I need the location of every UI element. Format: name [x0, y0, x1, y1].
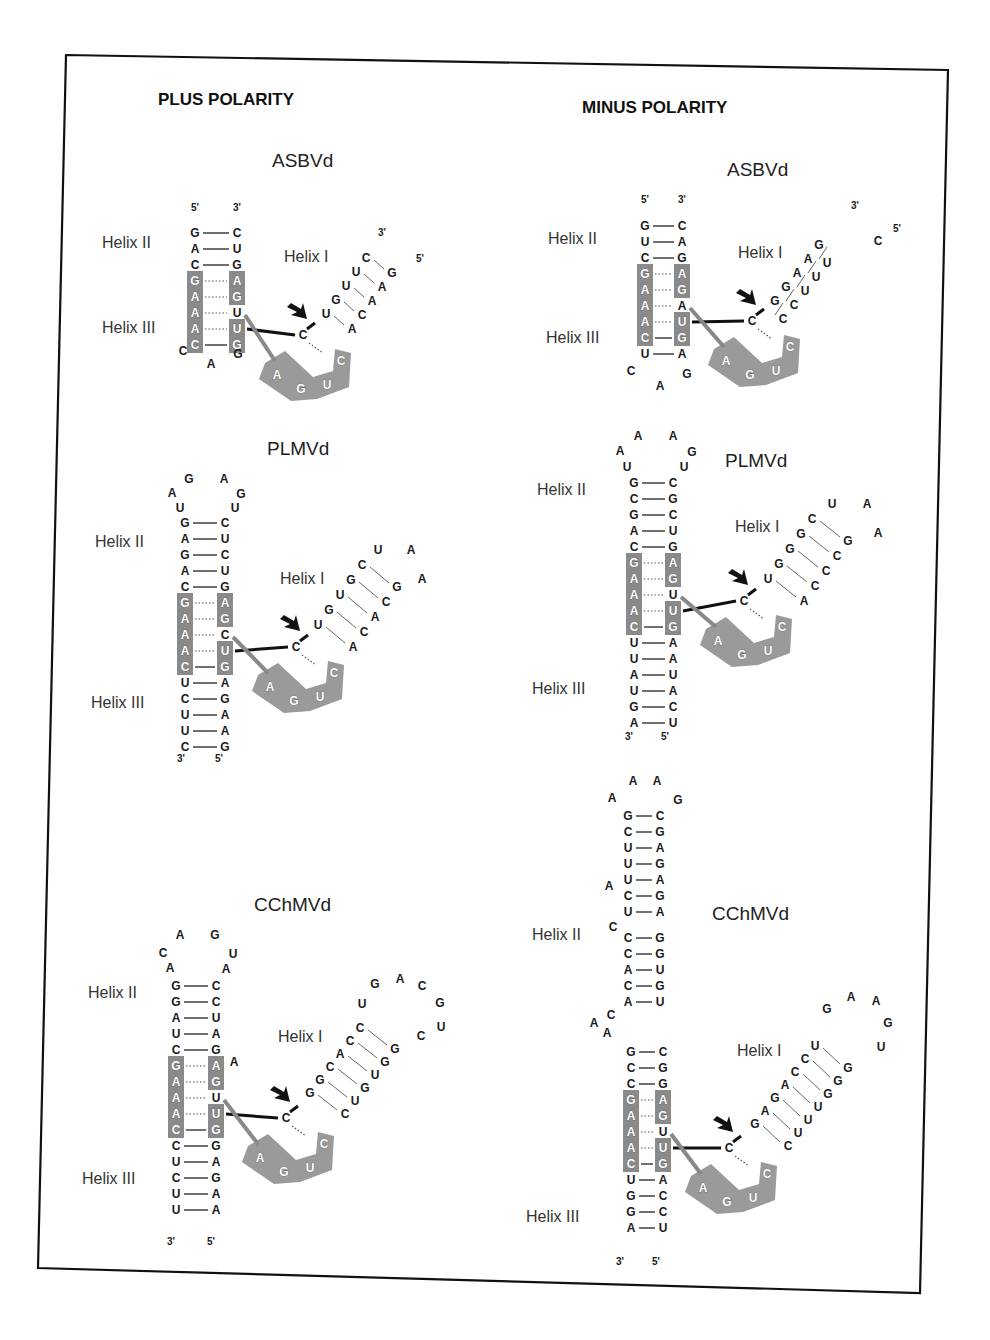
- loop-nucleotide: G: [236, 487, 245, 501]
- nucleotide: G: [211, 1171, 220, 1185]
- conserved-nucleotide: G: [211, 1123, 220, 1137]
- helix1-nucleotide: C: [358, 558, 367, 572]
- conserved-nucleotide: A: [191, 322, 200, 336]
- cleavage-bond: [756, 309, 764, 315]
- nucleotide: A: [678, 299, 687, 313]
- nucleotide: U: [627, 1173, 636, 1187]
- helix1-nucleotide: G: [390, 1042, 399, 1056]
- five-prime-label: 5': [416, 253, 424, 264]
- tertiary-interaction-line: [224, 1100, 258, 1144]
- helix1-nucleotide: C: [791, 1065, 800, 1079]
- nucleotide: G: [668, 492, 677, 506]
- nucleotide: C: [624, 825, 633, 839]
- nucleotide: U: [233, 242, 242, 256]
- helix1-nucleotide: G: [331, 293, 340, 307]
- nucleotide: A: [669, 652, 678, 666]
- tertiary-interaction-line: [671, 1134, 701, 1174]
- helix1-pair-bond: [374, 260, 384, 269]
- helix1-pair-bond: [344, 302, 354, 311]
- conserved-nucleotide: C: [172, 1123, 181, 1137]
- nucleotide: C: [221, 628, 230, 642]
- minus-asbvd-structure: 5'3'GCUACGGAAGAAAUCGCAGUCUACAGHelix IIHe…: [546, 194, 901, 393]
- nucleotide: U: [656, 995, 665, 1009]
- nucleotide: C: [659, 1205, 668, 1219]
- conserved-nucleotide: G: [629, 556, 638, 570]
- nucleotide: A: [172, 1011, 181, 1025]
- dotted-interaction: [750, 609, 764, 619]
- helix1-nucleotide: C: [346, 1034, 355, 1048]
- helix1-nucleotide: C: [382, 595, 391, 609]
- helix1-nucleotide: G: [346, 573, 355, 587]
- nucleotide: C: [656, 809, 665, 823]
- cleavage-arrow-icon: [270, 1086, 290, 1102]
- nucleotide: U: [669, 524, 678, 538]
- nucleotide: A: [656, 873, 665, 887]
- loop-nucleotide: C: [159, 946, 168, 960]
- loop-nucleotide: U: [229, 947, 238, 961]
- loop-nucleotide: G: [184, 472, 193, 486]
- helix1-pair-bond: [809, 536, 829, 552]
- nucleotide: C: [669, 476, 678, 490]
- nucleotide: A: [212, 1027, 221, 1041]
- core-nucleotide: C: [786, 340, 795, 354]
- helix1-pair-bond: [773, 1113, 790, 1129]
- nucleotide: U: [630, 636, 639, 650]
- helix1-nucleotide: A: [781, 1078, 790, 1092]
- core-nucleotide: U: [306, 1161, 315, 1175]
- nucleotide: G: [658, 1061, 667, 1075]
- nucleotide: G: [629, 508, 638, 522]
- conserved-nucleotide: C: [627, 1157, 636, 1171]
- helix1-nucleotide: U: [322, 307, 331, 321]
- core-nucleotide: A: [266, 680, 275, 694]
- conserved-nucleotide: G: [658, 1157, 667, 1171]
- plus-polarity-title: PLUS POLARITY: [158, 90, 295, 109]
- loop-nucleotide: G: [687, 445, 696, 459]
- five-prime-label: 5': [661, 731, 669, 742]
- helix1-nucleotide: G: [360, 1081, 369, 1095]
- nucleotide: A: [191, 242, 200, 256]
- loop-nucleotide: G: [822, 1002, 831, 1016]
- helix-ii-label: Helix II: [548, 230, 597, 247]
- nucleotide: G: [655, 825, 664, 839]
- minus-polarity-title: MINUS POLARITY: [582, 98, 728, 117]
- conserved-nucleotide: U: [678, 315, 687, 329]
- helix1-nucleotide: C: [811, 579, 820, 593]
- nucleotide: U: [669, 588, 678, 602]
- helix-ii-label: Helix II: [537, 481, 586, 498]
- nucleotide: G: [232, 258, 241, 272]
- nucleotide: G: [180, 548, 189, 562]
- three-prime-label: 3': [233, 202, 241, 213]
- nucleotide: G: [171, 979, 180, 993]
- helix1-pair-bond: [326, 627, 345, 643]
- dotted-interaction: [302, 655, 316, 665]
- nucleotide: C: [659, 1189, 668, 1203]
- helix1-nucleotide: G: [774, 557, 783, 571]
- loop-nucleotide: A: [863, 497, 872, 511]
- helix1-nucleotide: U: [342, 279, 351, 293]
- helix1-nucleotide: A: [378, 280, 387, 294]
- nucleotide: A: [181, 564, 190, 578]
- dotted-interaction: [309, 343, 323, 353]
- loop-nucleotide: G: [210, 928, 219, 942]
- helix1-nucleotide: G: [785, 542, 794, 556]
- core-nucleotide: G: [289, 694, 298, 708]
- conserved-nucleotide: G: [640, 267, 649, 281]
- conserved-nucleotide: G: [190, 274, 199, 288]
- nucleotide: G: [190, 226, 199, 240]
- helix1-nucleotide: U: [814, 1100, 823, 1114]
- nucleotide: U: [212, 1091, 221, 1105]
- nucleotide: A: [678, 347, 687, 361]
- conserved-nucleotide: G: [180, 596, 189, 610]
- cleavage-arrow-icon: [736, 289, 756, 305]
- loop-nucleotide: A: [872, 994, 881, 1008]
- helix1-nucleotide: G: [843, 1061, 852, 1075]
- helix1-pair-bond: [776, 581, 796, 597]
- dotted-interaction: [758, 329, 772, 339]
- helix1-nucleotide: G: [770, 294, 779, 308]
- conserved-nucleotide: C: [630, 620, 639, 634]
- nucleotide: G: [655, 979, 664, 993]
- conserved-nucleotide: U: [233, 322, 242, 336]
- helix-ii-label: Helix II: [532, 926, 581, 943]
- conserved-nucleotide: A: [659, 1093, 668, 1107]
- cleavage-site-nucleotide: C: [725, 1141, 734, 1155]
